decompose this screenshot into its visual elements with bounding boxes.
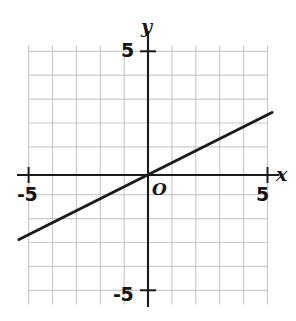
x-axis-label: x [276, 165, 287, 184]
y-axis-label: y [141, 17, 152, 36]
y-axis-tick-label-5: 5 [121, 41, 134, 60]
graph-plot-area [0, 0, 296, 321]
x-axis-tick-label-5: 5 [256, 185, 269, 204]
x-axis-tick-label-negative-5: -5 [17, 185, 37, 204]
y-axis-tick-label-negative-5: -5 [113, 285, 133, 304]
origin-label: O [152, 181, 167, 198]
coordinate-plane-figure: y x 5 -5 -5 5 O [0, 0, 296, 321]
